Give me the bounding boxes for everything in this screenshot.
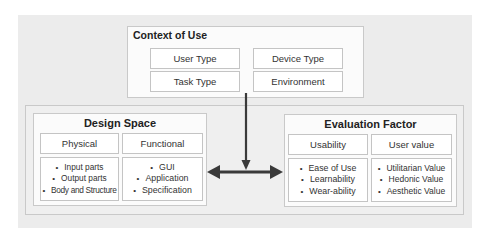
connector-arrows (0, 0, 490, 238)
down-arrow-icon (242, 93, 251, 170)
